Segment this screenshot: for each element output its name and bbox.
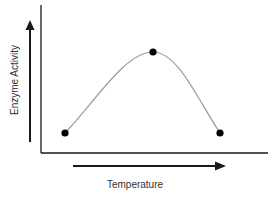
x-arrow-icon — [73, 162, 226, 171]
activity-curve — [65, 52, 220, 133]
data-point-low — [61, 129, 68, 136]
y-axis-label: Enzyme Activity — [9, 45, 20, 115]
x-axis-label: Temperature — [107, 179, 164, 190]
data-point-high — [216, 129, 223, 136]
data-point-optimum — [149, 48, 156, 55]
enzyme-activity-diagram: Enzyme Activity Temperature — [0, 0, 272, 197]
y-arrow-icon — [26, 20, 35, 142]
